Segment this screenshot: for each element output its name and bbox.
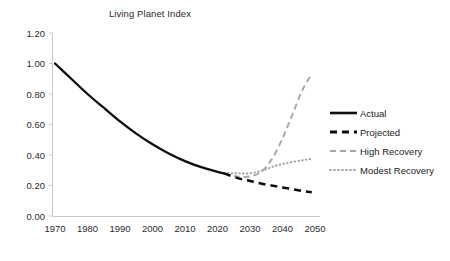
- x-tick-label: 1980: [77, 223, 98, 234]
- y-axis-labels: 1.20 1.00 0.80 0.60 0.40 0.20 0.00: [27, 28, 46, 222]
- legend-label-actual: Actual: [360, 108, 386, 119]
- y-tick-label: 1.20: [27, 28, 46, 39]
- x-axis-labels: 1970 1980 1990 2000 2010 2020 2030 2040 …: [44, 223, 325, 234]
- legend-label-modest-recovery: Modest Recovery: [360, 165, 434, 176]
- series-line-modest-recovery: [224, 159, 312, 174]
- y-tick-label: 0.40: [27, 150, 46, 161]
- legend-item-high-recovery[interactable]: High Recovery: [330, 146, 423, 157]
- x-tick-label: 2030: [239, 223, 260, 234]
- y-tick-label: 0.60: [27, 119, 46, 130]
- x-tick-label: 1970: [44, 223, 65, 234]
- x-tick-label: 1990: [109, 223, 130, 234]
- y-tick-label: 0.80: [27, 89, 46, 100]
- x-tick-label: 2050: [304, 223, 325, 234]
- y-tick-label: 0.00: [27, 211, 46, 222]
- y-tick-marks: [49, 33, 53, 216]
- series-line-actual: [55, 64, 224, 174]
- legend-item-actual[interactable]: Actual: [330, 108, 386, 119]
- axis-group: [53, 33, 321, 217]
- x-tick-label: 2040: [272, 223, 293, 234]
- legend-label-high-recovery: High Recovery: [360, 146, 423, 157]
- y-tick-label: 1.00: [27, 58, 46, 69]
- x-tick-label: 2000: [142, 223, 163, 234]
- x-tick-label: 2020: [207, 223, 228, 234]
- legend-label-projected: Projected: [360, 127, 400, 138]
- legend-item-modest-recovery[interactable]: Modest Recovery: [330, 165, 434, 176]
- plot-area: 1.20 1.00 0.80 0.60 0.40 0.20 0.00 1970 …: [0, 0, 450, 261]
- living-planet-index-chart: Living Planet Index 1.20 1.00 0.80 0.60 …: [0, 0, 450, 261]
- chart-legend: Actual Projected High Recovery Modest Re…: [330, 108, 434, 176]
- y-tick-label: 0.20: [27, 180, 46, 191]
- legend-item-projected[interactable]: Projected: [330, 127, 400, 138]
- x-tick-label: 2010: [174, 223, 195, 234]
